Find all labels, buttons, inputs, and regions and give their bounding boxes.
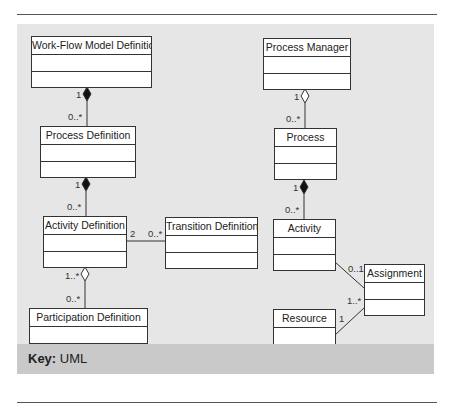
class-name: Process [275, 129, 336, 147]
multiplicity-label: 0..* [286, 113, 300, 124]
operations-compartment [264, 74, 350, 90]
multiplicity-label: 0..* [285, 204, 299, 215]
class-name: Activity [274, 220, 335, 238]
operations-compartment [32, 72, 151, 88]
class-name: Transition Definition [166, 218, 257, 236]
multiplicity-label: 0..* [67, 201, 81, 212]
operations-compartment [275, 164, 336, 180]
class-name: Resource [274, 310, 335, 328]
operations-compartment [44, 252, 126, 268]
multiplicity-label: 1 [294, 91, 299, 102]
composition-diamond-icon [82, 177, 90, 191]
aggregation-diamond-icon [301, 89, 309, 103]
multiplicity-label: 0..* [68, 111, 82, 122]
class-transition-definition: Transition Definition [165, 217, 258, 269]
class-name: Process Manager [264, 39, 350, 57]
attributes-compartment [41, 145, 135, 162]
multiplicity-label: 0..1 [348, 263, 364, 274]
multiplicity-label: 1..* [65, 270, 79, 281]
multiplicity-label: 1..* [347, 295, 361, 306]
attributes-compartment [44, 235, 126, 252]
key-label: Key: [28, 351, 56, 366]
attributes-compartment [166, 236, 257, 253]
multiplicity-label: 1 [339, 313, 344, 324]
class-process-definition: Process Definition [40, 126, 136, 178]
multiplicity-label: 1 [75, 179, 80, 190]
multiplicity-label: 0..* [66, 293, 80, 304]
class-name: Assignment [365, 265, 424, 283]
multiplicity-label: 1 [293, 182, 298, 193]
class-name: Work-Flow Model Definition [32, 37, 151, 55]
multiplicity-label: 0..* [148, 228, 162, 239]
class-work-flow-model-definition: Work-Flow Model Definition [31, 36, 152, 88]
class-process: Process [274, 128, 337, 180]
attributes-compartment [365, 283, 424, 300]
multiplicity-label: 2 [130, 228, 135, 239]
operations-compartment [274, 255, 335, 271]
operations-compartment [41, 162, 135, 178]
class-process-manager: Process Manager [263, 38, 351, 90]
class-name: Process Definition [41, 127, 135, 145]
class-name: Activity Definition [44, 217, 126, 235]
attributes-compartment [32, 55, 151, 72]
attributes-compartment [275, 147, 336, 164]
attributes-compartment [30, 327, 147, 344]
attributes-compartment [274, 328, 335, 345]
key-band: Key: UML [17, 344, 434, 374]
attributes-compartment [264, 57, 350, 74]
composition-diamond-icon [83, 87, 91, 101]
class-activity: Activity [273, 219, 336, 271]
aggregation-diamond-icon [81, 267, 89, 281]
class-name: Participation Definition [30, 309, 147, 327]
composition-diamond-icon [300, 180, 308, 194]
class-assignment: Assignment [364, 264, 425, 316]
key-value: UML [60, 351, 87, 366]
bottom-rule [17, 402, 437, 403]
attributes-compartment [274, 238, 335, 255]
operations-compartment [365, 300, 424, 316]
operations-compartment [166, 253, 257, 269]
class-activity-definition: Activity Definition [43, 216, 127, 268]
multiplicity-label: 1 [76, 89, 81, 100]
